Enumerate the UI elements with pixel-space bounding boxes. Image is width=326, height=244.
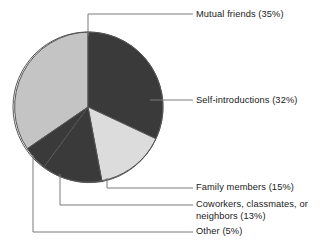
leader-line-family-members	[107, 178, 193, 188]
pie-label-other: Other (5%)	[196, 226, 242, 238]
pie-label-coworkers-line2: neighbors (13%)	[196, 211, 266, 221]
pie-label-family-members: Family members (15%)	[196, 182, 294, 194]
pie-label-coworkers-line1: Coworkers, classmates, or	[196, 199, 308, 209]
pie-chart-figure: Mutual friends (35%) Self-introductions …	[0, 0, 326, 244]
pie-label-self-introductions: Self-introductions (32%)	[196, 95, 297, 107]
pie-label-mutual-friends: Mutual friends (35%)	[196, 9, 284, 21]
leader-line-mutual-friends	[88, 14, 193, 36]
pie-label-coworkers: Coworkers, classmates, orneighbors (13%)	[196, 199, 308, 222]
